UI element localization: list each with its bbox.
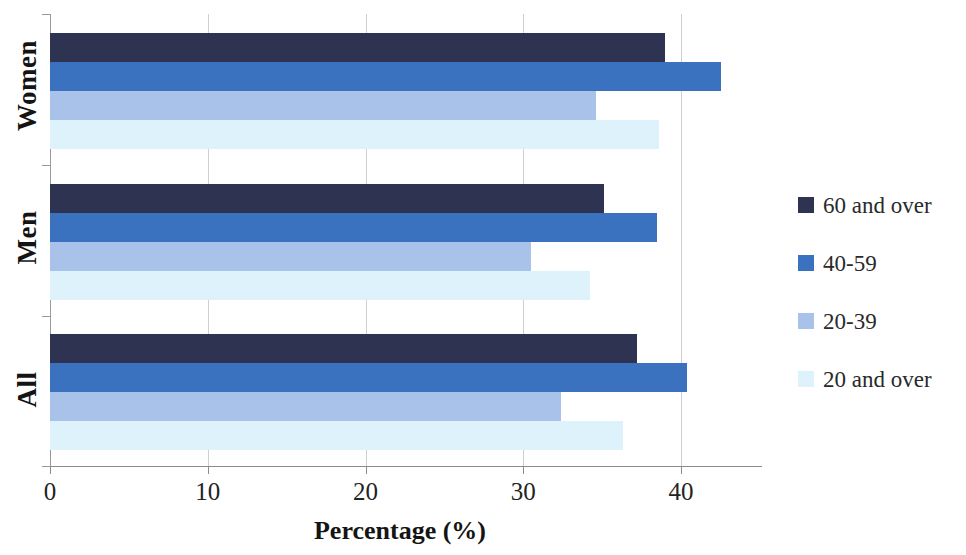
- legend-item[interactable]: 20-39: [798, 308, 877, 334]
- bar: [50, 421, 623, 450]
- x-axis-line: [50, 466, 762, 467]
- legend-swatch-icon: [798, 197, 814, 213]
- y-axis-label-women: Women: [12, 11, 43, 161]
- y-axis-label-text: Men: [12, 211, 43, 265]
- y-axis-label-men: Men: [12, 163, 43, 313]
- bar: [50, 91, 596, 120]
- legend-swatch-icon: [798, 313, 814, 329]
- legend-label: 40-59: [823, 252, 877, 275]
- bar: [50, 334, 637, 363]
- bar: [50, 62, 721, 91]
- legend-label: 20-39: [823, 310, 877, 333]
- legend-item[interactable]: 20 and over: [798, 366, 932, 392]
- x-axis-tick: [50, 466, 51, 474]
- bar: [50, 184, 604, 213]
- x-axis-tick: [208, 466, 209, 474]
- x-axis-tick: [366, 466, 367, 474]
- legend-label: 60 and over: [823, 194, 932, 217]
- x-axis-title: Percentage (%): [70, 516, 730, 546]
- legend-label: 20 and over: [823, 368, 932, 391]
- x-axis-tick-label: 10: [178, 478, 238, 506]
- bar: [50, 120, 659, 149]
- bar: [50, 363, 687, 392]
- legend-swatch-icon: [798, 371, 814, 387]
- x-axis-tick: [523, 466, 524, 474]
- bar: [50, 33, 665, 62]
- legend-item[interactable]: 60 and over: [798, 192, 932, 218]
- bar-chart: Women Men All 010203040 Percentage (%) 6…: [0, 0, 966, 555]
- y-axis-label-text: All: [12, 372, 43, 408]
- x-axis-tick-label: 20: [336, 478, 396, 506]
- y-axis-label-text: Women: [12, 40, 43, 131]
- bar: [50, 242, 531, 271]
- x-axis-tick-label: 30: [493, 478, 553, 506]
- x-axis-tick: [681, 466, 682, 474]
- bar: [50, 213, 657, 242]
- plot-area: [50, 14, 760, 466]
- legend-item[interactable]: 40-59: [798, 250, 877, 276]
- bar: [50, 392, 561, 421]
- y-axis-label-all: All: [12, 315, 43, 465]
- x-axis-tick-label: 0: [20, 478, 80, 506]
- legend-swatch-icon: [798, 255, 814, 271]
- bar: [50, 271, 590, 300]
- x-axis-tick-label: 40: [651, 478, 711, 506]
